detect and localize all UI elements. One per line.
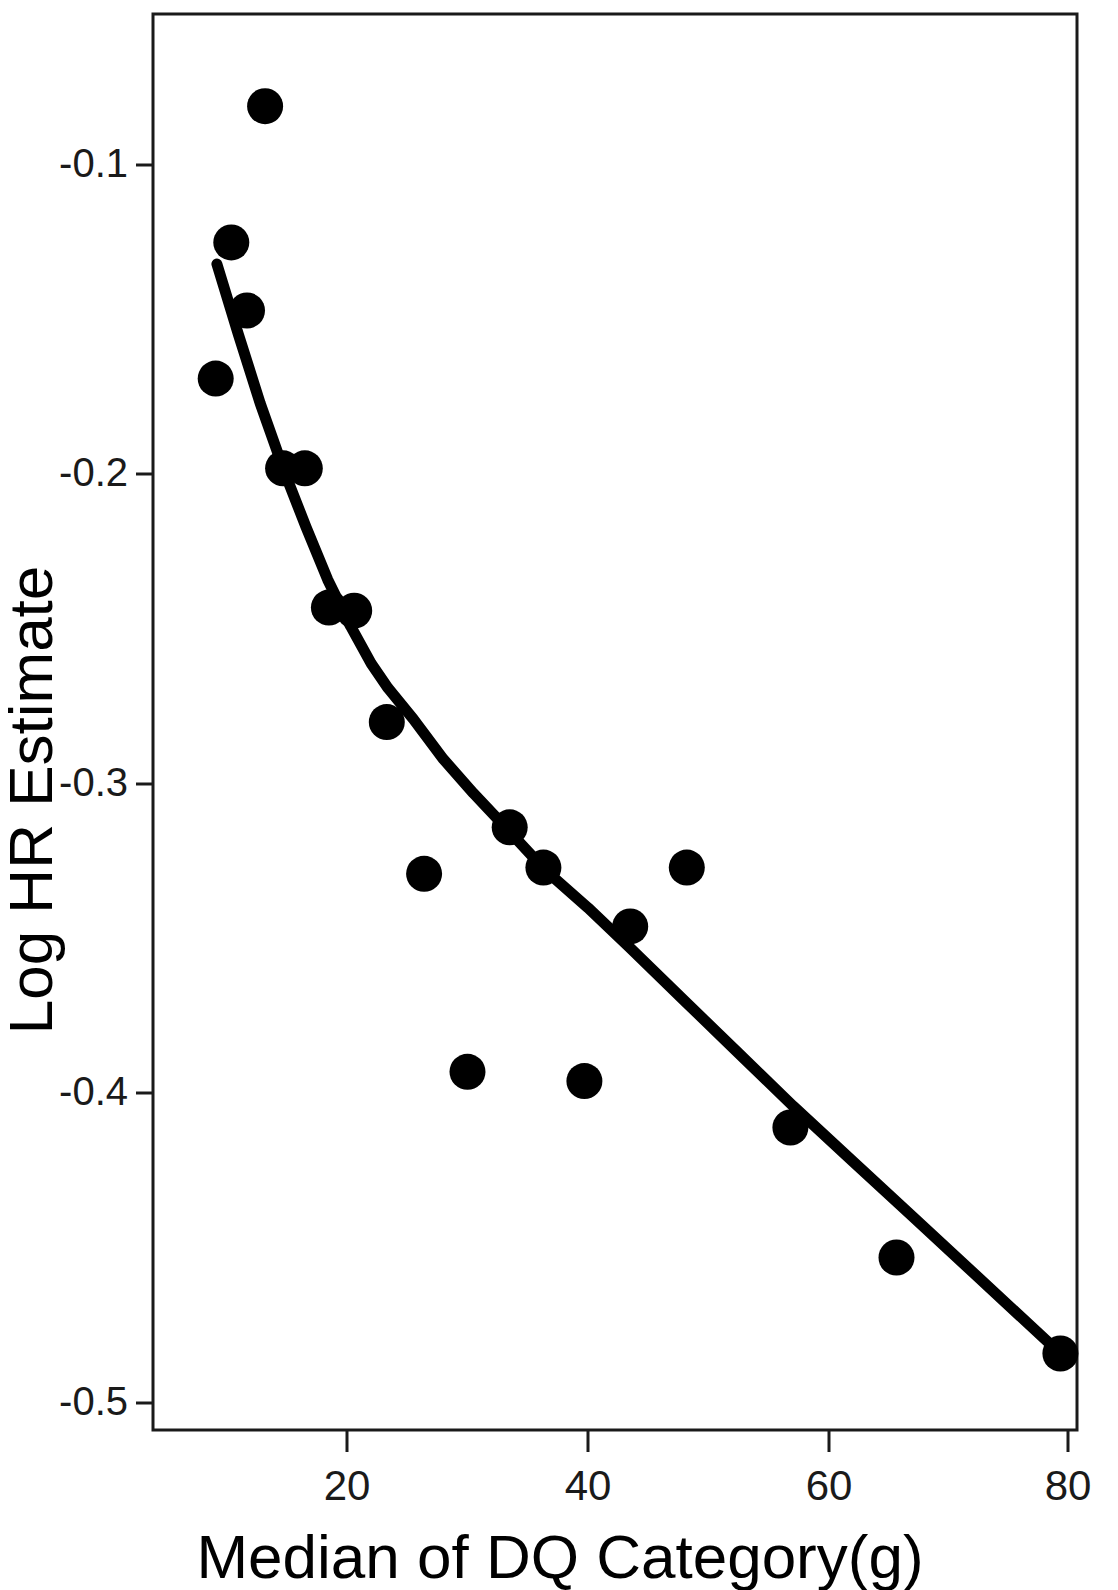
y-tick-label-1: -0.2	[59, 450, 128, 494]
data-point	[566, 1063, 602, 1099]
data-point	[198, 361, 234, 397]
plot-frame	[153, 14, 1077, 1430]
data-point	[369, 704, 405, 740]
chart-page: -0.1 -0.2 -0.3 -0.4 -0.5 20 40 60 80 Med…	[0, 0, 1118, 1590]
data-point	[406, 856, 442, 892]
y-tick-label-3: -0.4	[59, 1069, 128, 1113]
data-point	[669, 850, 705, 886]
x-tick-label-2: 60	[806, 1462, 853, 1509]
data-point	[1042, 1336, 1078, 1372]
y-tick-label-2: -0.3	[59, 760, 128, 804]
data-point	[229, 293, 265, 329]
x-tick-label-3: 80	[1045, 1462, 1092, 1509]
y-axis-tick-labels: -0.1 -0.2 -0.3 -0.4 -0.5	[59, 141, 128, 1423]
y-tick-label-0: -0.1	[59, 141, 128, 185]
data-point	[247, 88, 283, 124]
data-point	[492, 809, 528, 845]
x-axis-title: Median of DQ Category(g)	[196, 1522, 923, 1590]
scatter-plot-figure: -0.1 -0.2 -0.3 -0.4 -0.5 20 40 60 80 Med…	[0, 0, 1118, 1590]
x-tick-label-0: 20	[324, 1462, 371, 1509]
x-axis-ticks	[347, 1430, 1068, 1452]
data-point	[612, 908, 648, 944]
data-point	[450, 1054, 486, 1090]
data-point	[879, 1240, 915, 1276]
x-tick-label-1: 40	[565, 1462, 612, 1509]
y-axis-title: Log HR Estimate	[0, 566, 65, 1035]
data-point	[525, 850, 561, 886]
data-point	[213, 224, 249, 260]
y-tick-label-4: -0.5	[59, 1379, 128, 1423]
data-point	[336, 593, 372, 629]
x-axis-tick-labels: 20 40 60 80	[324, 1462, 1092, 1509]
data-point	[772, 1110, 808, 1146]
data-point	[287, 450, 323, 486]
y-axis-ticks	[136, 165, 153, 1403]
